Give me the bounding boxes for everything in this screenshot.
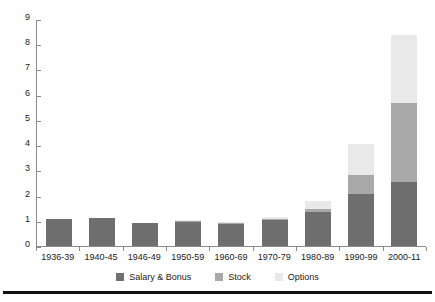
stacked-bar[interactable] xyxy=(391,35,417,246)
x-axis-label-1990-99: 1990-99 xyxy=(339,252,382,263)
x-axis-label-1950-59: 1950-59 xyxy=(166,252,209,263)
bar-group-1990-99[interactable] xyxy=(340,20,383,246)
x-tick-mark xyxy=(426,247,427,251)
x-tick-mark xyxy=(253,247,254,251)
x-axis-label-1960-69: 1960-69 xyxy=(209,252,252,263)
bar-segment-salary-bonus[interactable] xyxy=(89,218,115,246)
x-tick-mark xyxy=(209,247,210,251)
x-tick-mark xyxy=(123,247,124,251)
stacked-bar[interactable] xyxy=(89,218,115,246)
legend-swatch-icon xyxy=(215,273,223,281)
bar-segment-salary-bonus[interactable] xyxy=(175,222,201,246)
bar-segment-salary-bonus[interactable] xyxy=(132,223,158,246)
bar-segment-salary-bonus[interactable] xyxy=(348,194,374,246)
stacked-bar-chart: 9876543210 1936-391940-451946-491950-591… xyxy=(0,0,435,302)
legend-label: Salary & Bonus xyxy=(129,272,191,282)
bar-group-2000-11[interactable] xyxy=(383,20,426,246)
x-tick-mark xyxy=(296,247,297,251)
bar-segment-options[interactable] xyxy=(305,201,331,210)
bar-segment-stock[interactable] xyxy=(348,175,374,194)
bar-group-1950-59[interactable] xyxy=(167,20,210,246)
x-axis-labels: 1936-391940-451946-491950-591960-691970-… xyxy=(36,252,426,263)
bar-segment-salary-bonus[interactable] xyxy=(391,182,417,246)
bar-segment-salary-bonus[interactable] xyxy=(218,224,244,246)
legend-item-stock[interactable]: Stock xyxy=(215,272,251,282)
x-axis-label-1940-45: 1940-45 xyxy=(79,252,122,263)
y-tick-label: 5 xyxy=(8,114,30,123)
stacked-bar[interactable] xyxy=(175,220,201,246)
bar-group-1940-45[interactable] xyxy=(80,20,123,246)
y-tick-label: 1 xyxy=(8,215,30,224)
bar-segment-salary-bonus[interactable] xyxy=(46,219,72,246)
stacked-bar[interactable] xyxy=(262,217,288,246)
y-tick-label: 9 xyxy=(8,13,30,22)
stacked-bar[interactable] xyxy=(218,222,244,246)
legend-swatch-icon xyxy=(275,273,283,281)
bar-segment-options[interactable] xyxy=(348,144,374,176)
y-tick-label: 7 xyxy=(8,63,30,72)
bar-group-1946-49[interactable] xyxy=(123,20,166,246)
bar-segment-options[interactable] xyxy=(391,35,417,102)
bar-segment-salary-bonus[interactable] xyxy=(262,220,288,246)
x-tick-mark xyxy=(166,247,167,251)
x-tick-mark xyxy=(339,247,340,251)
y-tick-label: 8 xyxy=(8,38,30,47)
stacked-bar[interactable] xyxy=(305,201,331,246)
stacked-bar[interactable] xyxy=(348,144,374,246)
legend-item-salary-bonus[interactable]: Salary & Bonus xyxy=(116,272,191,282)
plot-area: 9876543210 xyxy=(36,20,426,247)
bar-segment-salary-bonus[interactable] xyxy=(305,212,331,246)
x-axis-label-1980-89: 1980-89 xyxy=(296,252,339,263)
stacked-bar[interactable] xyxy=(46,219,72,246)
x-tick-mark xyxy=(383,247,384,251)
legend-label: Stock xyxy=(228,272,251,282)
stacked-bar[interactable] xyxy=(132,223,158,246)
y-tick-label: 2 xyxy=(8,190,30,199)
x-tick-mark xyxy=(79,247,80,251)
bar-group-1980-89[interactable] xyxy=(296,20,339,246)
legend-item-options[interactable]: Options xyxy=(275,272,319,282)
chart-legend: Salary & BonusStockOptions xyxy=(0,272,435,282)
y-tick-label: 0 xyxy=(8,240,30,249)
bar-series-container xyxy=(37,20,426,246)
bar-group-1970-79[interactable] xyxy=(253,20,296,246)
y-tick-label: 3 xyxy=(8,164,30,173)
x-tick-mark xyxy=(36,247,37,251)
x-axis-label-1970-79: 1970-79 xyxy=(253,252,296,263)
bar-segment-stock[interactable] xyxy=(391,103,417,182)
legend-label: Options xyxy=(288,272,319,282)
x-axis-label-1936-39: 1936-39 xyxy=(36,252,79,263)
x-axis-label-2000-11: 2000-11 xyxy=(383,252,426,263)
y-tick-label: 6 xyxy=(8,89,30,98)
y-tick-label: 4 xyxy=(8,139,30,148)
bar-group-1960-69[interactable] xyxy=(210,20,253,246)
legend-swatch-icon xyxy=(116,273,124,281)
x-axis-label-1946-49: 1946-49 xyxy=(123,252,166,263)
bottom-divider-rule xyxy=(3,291,432,294)
bar-group-1936-39[interactable] xyxy=(37,20,80,246)
